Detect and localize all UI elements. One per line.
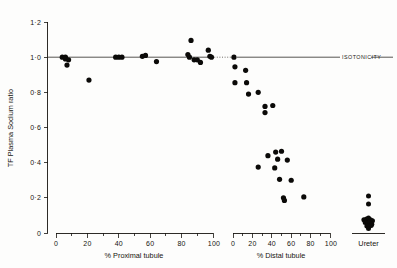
data-point [243, 68, 248, 73]
data-point [206, 48, 211, 53]
figure-root: 1·2 1·0 0·8 0·6 0·4 0·2 0 TF Plasma Sodi… [0, 0, 397, 268]
data-point [272, 165, 277, 170]
distal-label-60: 60 [287, 240, 295, 247]
y-tick-label-0-8: 0·8 [30, 89, 41, 96]
distal-label-80: 80 [307, 240, 315, 247]
data-point [143, 53, 148, 58]
y-axis: 1·2 1·0 0·8 0·6 0·4 0·2 0 TF Plasma Sodi… [6, 19, 48, 237]
proximal-label-20: 20 [83, 240, 91, 247]
proximal-label-0: 0 [54, 240, 58, 247]
data-point [187, 55, 192, 60]
y-tick-label-0-6: 0·6 [30, 124, 41, 131]
isotonicity-reference: ISOTONICITY [48, 54, 394, 60]
proximal-label-60: 60 [146, 240, 154, 247]
data-point [86, 77, 91, 82]
distal-label-20: 20 [248, 240, 256, 247]
plot-area: 1·2 1·0 0·8 0·6 0·4 0·2 0 TF Plasma Sodi… [0, 0, 397, 268]
data-point [366, 194, 371, 199]
distal-x-axis: 0 20 40 60 80 100 % Distal tubule [231, 233, 337, 260]
proximal-axis-title: % Proximal tubule [105, 251, 164, 260]
data-point [366, 226, 371, 231]
distal-label-100: 100 [325, 240, 337, 247]
scatter-chart: 1·2 1·0 0·8 0·6 0·4 0·2 0 TF Plasma Sodi… [0, 0, 397, 268]
data-point [282, 198, 287, 203]
data-point [232, 64, 237, 69]
data-point [231, 55, 236, 60]
data-point [188, 38, 193, 43]
data-point [209, 55, 214, 60]
data-point [262, 110, 267, 115]
proximal-label-80: 80 [178, 240, 186, 247]
data-point [289, 178, 294, 183]
y-tick-label-0-2: 0·2 [30, 194, 41, 201]
data-point [232, 80, 237, 85]
data-point [198, 60, 203, 65]
y-tick-label-0-4: 0·4 [30, 159, 41, 166]
distal-label-0: 0 [231, 240, 235, 247]
data-point [154, 59, 159, 64]
distal-datapoints [231, 55, 306, 204]
y-tick-label-0: 0 [37, 230, 41, 237]
y-axis-title: TF Plasma Sodium ratio [6, 89, 15, 167]
data-point [273, 150, 278, 155]
proximal-label-100: 100 [208, 240, 220, 247]
data-point [256, 164, 261, 169]
data-point [246, 91, 251, 96]
data-point [256, 90, 261, 95]
data-point [366, 201, 371, 206]
data-point [277, 177, 282, 182]
data-point [66, 57, 71, 62]
proximal-label-40: 40 [115, 240, 123, 247]
proximal-x-axis: 0 20 40 60 80 100 % Proximal tubule [54, 233, 220, 260]
y-tick-label-1-2: 1·2 [30, 19, 41, 26]
data-point [119, 55, 124, 60]
data-point [265, 153, 270, 158]
data-point [270, 103, 275, 108]
distal-axis-title: % Distal tubule [257, 251, 306, 260]
data-point [244, 80, 249, 85]
data-point [279, 149, 284, 154]
data-point [275, 157, 280, 162]
ureter-datapoints [361, 194, 375, 232]
data-point [262, 104, 267, 109]
data-point [301, 194, 306, 199]
ureter-group-axis: Ureter [352, 233, 385, 248]
y-tick-label-1-0: 1·0 [30, 54, 41, 61]
data-point [64, 62, 69, 67]
isotonicity-label: ISOTONICITY [342, 54, 381, 60]
distal-label-40: 40 [268, 240, 276, 247]
ureter-axis-title: Ureter [358, 239, 379, 248]
data-point [285, 157, 290, 162]
proximal-datapoints [60, 38, 214, 83]
